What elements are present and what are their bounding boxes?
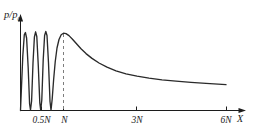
figure-container: p/p0 0.5N N 3N 6N X <box>0 0 255 133</box>
x-tick-label-3N: 3N <box>130 115 143 125</box>
y-axis-label: p/p0 <box>3 9 21 23</box>
x-tick-label-0.5N: 0.5N <box>32 115 51 125</box>
x-tick-label-N: N <box>60 115 68 125</box>
x-tick-label-6N: 6N <box>220 115 232 125</box>
x-axis-name-label: X <box>236 113 244 124</box>
label-layer: p/p0 0.5N N 3N 6N X <box>0 0 255 133</box>
